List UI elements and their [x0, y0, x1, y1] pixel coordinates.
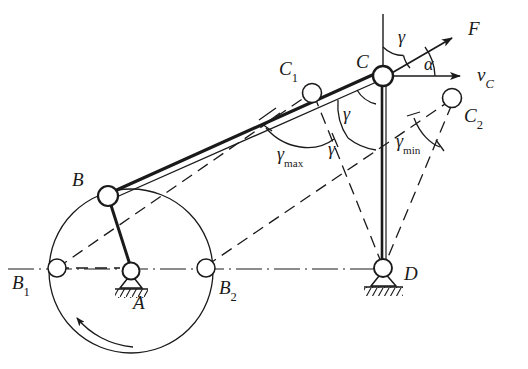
mechanism-diagram: A B B1 B2 C C1 C2 D F vC γ γ γ γmax γmin… [0, 0, 528, 369]
label-velocity-vc: vC [477, 65, 494, 88]
label-gamma-max: γmax [277, 145, 303, 167]
joint-circle-C2 [443, 89, 462, 108]
rotation-direction-arrow [77, 318, 133, 347]
joint-circle-D [374, 259, 392, 277]
crank-link-AB [109, 199, 131, 268]
limit-position-1-linkage [57, 95, 381, 268]
joint-circle-B2 [197, 259, 215, 277]
joint-circle-C [373, 66, 393, 86]
joint-circle-B [98, 186, 118, 206]
label-point-d: D [404, 264, 418, 283]
label-point-b: B [72, 170, 84, 189]
limit-position-2-linkage [206, 102, 452, 266]
label-gamma-upper: γ [343, 105, 350, 123]
angle-arc-gamma-upper [357, 90, 376, 104]
joint-circle-A [123, 263, 140, 280]
label-point-b1: B1 [12, 273, 30, 296]
label-point-c: C [356, 52, 369, 71]
joint-circle-C1 [303, 84, 322, 103]
label-gamma-lower: γ [328, 140, 335, 158]
label-force-f: F [468, 19, 480, 38]
rocker-link-CD [382, 80, 386, 263]
label-alpha: α [424, 55, 433, 73]
label-gamma-top: γ [398, 28, 405, 46]
label-point-c1: C1 [279, 59, 298, 82]
label-point-b2: B2 [219, 278, 237, 301]
coupler-link-BC [110, 72, 381, 199]
label-point-a: A [133, 293, 145, 312]
label-point-c2: C2 [464, 106, 483, 129]
label-gamma-min: γmin [396, 132, 420, 154]
joint-circle-B1 [48, 259, 66, 277]
